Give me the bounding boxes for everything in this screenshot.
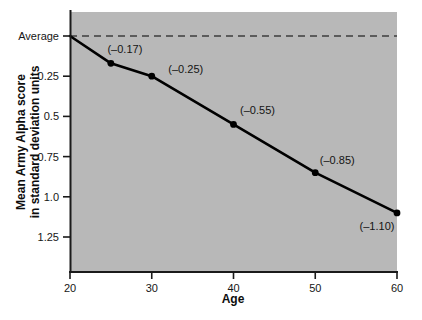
y-axis-tick-label: 1.0: [44, 191, 59, 203]
data-point-marker: [107, 60, 114, 67]
x-axis-tick-label: 20: [64, 282, 76, 294]
data-point-label: (–0.17): [107, 43, 142, 55]
x-axis-tick-label: 50: [309, 282, 321, 294]
data-point-marker: [230, 121, 237, 128]
data-point-label: (–0.55): [240, 104, 275, 116]
data-point-marker: [394, 209, 401, 216]
chart-canvas: Average0.250.50.751.01.25 2030405060 (–0…: [0, 0, 422, 320]
x-axis-tick-label: 30: [146, 282, 158, 294]
y-axis-title-line-2: in standard deviation units: [28, 65, 42, 218]
x-axis-ticks: [70, 272, 397, 279]
y-axis-tick-label: 1.25: [38, 231, 59, 243]
x-axis-title: Age: [222, 292, 245, 306]
y-axis-ticks: [63, 36, 70, 237]
y-axis-tick-label: 0.5: [44, 110, 59, 122]
y-axis-tick-label: Average: [18, 30, 59, 42]
y-axis-title-line-1: Mean Army Alpha score: [14, 74, 28, 210]
x-axis-tick-label: 60: [391, 282, 403, 294]
chart-figure: Average0.250.50.751.01.25 2030405060 (–0…: [0, 0, 422, 320]
data-point-marker: [312, 169, 319, 176]
data-point-label: (–0.85): [320, 154, 355, 166]
data-point-label: (–1.10): [360, 220, 395, 232]
data-point-marker: [148, 73, 155, 80]
data-point-label: (–0.25): [168, 63, 203, 75]
